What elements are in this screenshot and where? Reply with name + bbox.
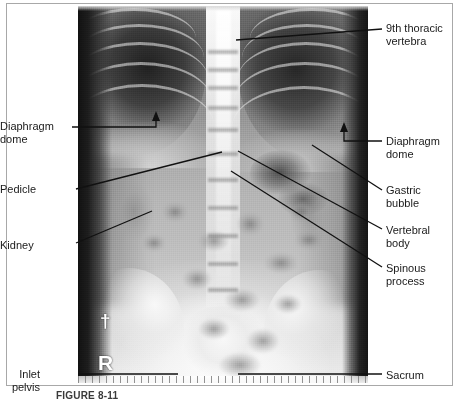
- label-diaphragm-dome-right: Diaphragm dome: [386, 135, 440, 160]
- label-pedicle: Pedicle: [0, 183, 26, 196]
- label-spinous-process: Spinous process: [386, 262, 426, 287]
- xray-film-grain: [78, 6, 368, 383]
- right-side-marker-icon: R: [98, 352, 113, 373]
- label-kidney: Kidney: [0, 239, 28, 252]
- label-vertebral-body: Vertebral body: [386, 224, 430, 249]
- xray-film-ruler: [78, 376, 368, 383]
- label-gastric-bubble: Gastric bubble: [386, 184, 421, 209]
- radiograph-image: † R: [78, 6, 368, 383]
- label-ninth-thoracic-vertebra: 9th thoracic vertebra: [386, 22, 443, 47]
- pin-marker-icon: †: [100, 311, 111, 330]
- label-diaphragm-dome-left: Diaphragm dome: [0, 120, 12, 145]
- radiograph-panel: † R: [78, 6, 368, 383]
- label-inlet-pelvis: Inlet pelvis: [0, 368, 40, 393]
- label-sacrum: Sacrum: [386, 369, 424, 382]
- figure-caption: FIGURE 8-11: [56, 390, 118, 405]
- figure-root: † R 9th thoracic vertebraDiaphragm domeD…: [0, 0, 459, 407]
